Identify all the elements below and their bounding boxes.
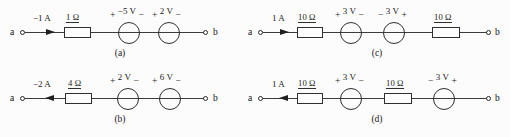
resistor-label-c-1: 10 Ω bbox=[298, 13, 316, 23]
current-label-d: 1 A bbox=[272, 80, 285, 89]
current-arrow-d bbox=[279, 95, 288, 101]
caption-d: (d) bbox=[357, 115, 397, 125]
terminal-dot-d-right bbox=[486, 96, 491, 101]
terminal-label-d-right: b bbox=[495, 94, 500, 104]
current-arrow-c bbox=[280, 29, 289, 35]
resistor-label-d-1: 10 Ω bbox=[298, 79, 316, 89]
voltage-value: 3 V bbox=[386, 7, 399, 16]
terminal-dot-b-right bbox=[203, 96, 208, 101]
current-arrow-a bbox=[46, 29, 55, 35]
voltage-label-d-1: + 3 V − bbox=[335, 73, 364, 83]
polarity-plus-icon: + bbox=[451, 77, 456, 87]
polarity-minus-icon: − bbox=[175, 77, 180, 87]
voltage-label-b-1: + 2 V − bbox=[110, 73, 139, 83]
source-b-2 bbox=[159, 88, 181, 110]
polarity-plus-icon: + bbox=[335, 11, 340, 21]
voltage-value: 2 V bbox=[160, 7, 173, 16]
source-d-1 bbox=[340, 88, 362, 110]
voltage-label-d-2: − 3 V + bbox=[428, 73, 457, 83]
current-arrow-b bbox=[45, 95, 54, 101]
resistor-d-1 bbox=[297, 93, 323, 104]
resistor-label-b-1: 4 Ω bbox=[68, 79, 81, 89]
current-label-a: −1 A bbox=[33, 14, 51, 23]
terminal-dot-c-right bbox=[486, 30, 491, 35]
caption-b: (b) bbox=[100, 115, 140, 125]
polarity-minus-icon: − bbox=[358, 77, 363, 87]
caption-a: (a) bbox=[100, 49, 140, 59]
polarity-minus-icon: − bbox=[428, 77, 433, 87]
voltage-value: 3 V bbox=[343, 7, 356, 16]
polarity-plus-icon: + bbox=[335, 77, 340, 87]
terminal-dot-a-right bbox=[203, 30, 208, 35]
circuit-figure: a −1 A 1 Ω + −5 V − + 2 V − b (a) a −2 A… bbox=[0, 0, 510, 137]
voltage-value: 2 V bbox=[118, 73, 131, 82]
polarity-plus-icon: + bbox=[152, 11, 157, 21]
caption-c: (c) bbox=[357, 49, 397, 59]
circuit-b: a −2 A 4 Ω + 2 V − + 6 V − b (b) bbox=[0, 66, 255, 134]
terminal-label-b-left: a bbox=[10, 94, 14, 104]
voltage-value: −5 V bbox=[118, 7, 136, 16]
voltage-label-c-1: + 3 V − bbox=[335, 7, 364, 17]
voltage-label-a-2: + 2 V − bbox=[152, 7, 181, 17]
source-a-2 bbox=[158, 22, 180, 44]
circuit-c: a 1 A 10 Ω + 3 V − − 3 V + 10 Ω b (c) bbox=[252, 0, 507, 68]
resistor-d-2 bbox=[384, 93, 412, 104]
resistor-label-d-2: 10 Ω bbox=[386, 79, 404, 89]
source-d-2 bbox=[433, 88, 455, 110]
polarity-minus-icon: − bbox=[378, 11, 383, 21]
terminal-label-b-right: b bbox=[213, 94, 218, 104]
polarity-minus-icon: − bbox=[358, 11, 363, 21]
resistor-c-1 bbox=[297, 27, 323, 38]
polarity-plus-icon: + bbox=[152, 77, 157, 87]
voltage-label-b-2: + 6 V − bbox=[152, 73, 181, 83]
circuit-a: a −1 A 1 Ω + −5 V − + 2 V − b (a) bbox=[0, 0, 255, 68]
resistor-label-c-2: 10 Ω bbox=[434, 13, 452, 23]
polarity-plus-icon: + bbox=[110, 77, 115, 87]
source-a-1 bbox=[118, 22, 140, 44]
current-label-c: 1 A bbox=[272, 14, 285, 23]
circuit-d: a 1 A 10 Ω + 3 V − 10 Ω − 3 V + b (d) bbox=[252, 66, 507, 134]
polarity-minus-icon: − bbox=[139, 11, 144, 21]
resistor-a-1 bbox=[64, 27, 91, 38]
terminal-label-d-left: a bbox=[248, 94, 252, 104]
voltage-value: 6 V bbox=[160, 73, 173, 82]
source-c-2 bbox=[383, 22, 405, 44]
polarity-plus-icon: + bbox=[110, 11, 115, 21]
terminal-label-c-right: b bbox=[495, 28, 500, 38]
voltage-label-a-1: + −5 V − bbox=[110, 7, 144, 17]
terminal-label-a-left: a bbox=[10, 28, 14, 38]
voltage-value: 3 V bbox=[343, 73, 356, 82]
resistor-b-1 bbox=[65, 93, 92, 104]
source-b-1 bbox=[117, 88, 139, 110]
source-c-1 bbox=[340, 22, 362, 44]
terminal-label-c-left: a bbox=[248, 28, 252, 38]
voltage-label-c-2: − 3 V + bbox=[378, 7, 407, 17]
terminal-label-a-right: b bbox=[213, 28, 218, 38]
polarity-minus-icon: − bbox=[133, 77, 138, 87]
polarity-plus-icon: + bbox=[401, 11, 406, 21]
voltage-value: 3 V bbox=[436, 73, 449, 82]
resistor-label-a-1: 1 Ω bbox=[66, 13, 79, 23]
current-label-b: −2 A bbox=[33, 80, 51, 89]
polarity-minus-icon: − bbox=[175, 11, 180, 21]
resistor-c-2 bbox=[432, 27, 460, 38]
